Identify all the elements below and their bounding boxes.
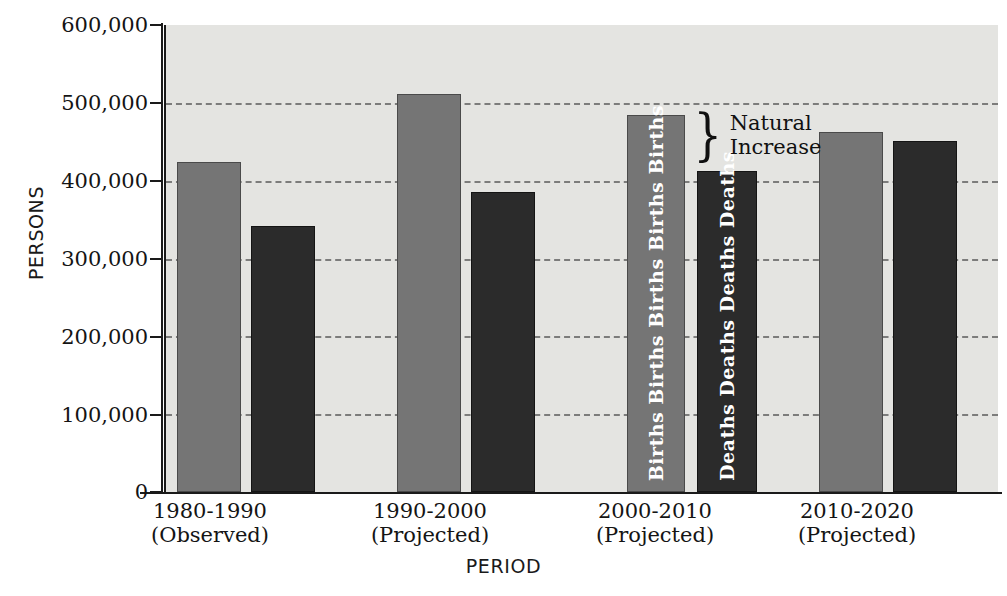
x-tick-period-1: 1980-1990 <box>153 499 267 523</box>
curly-brace-icon: } <box>694 115 723 155</box>
y-tick-mark-500000 <box>150 102 161 104</box>
x-tick-status-1: (Observed) <box>100 524 320 548</box>
y-tick-mark-0 <box>150 491 161 493</box>
gridline-500000 <box>166 103 998 105</box>
y-tick-mark-200000 <box>150 336 161 338</box>
bar-births-1980-1990[interactable] <box>177 162 241 492</box>
x-axis-line <box>140 492 1002 494</box>
plot-area: Births Births Births Births Births Death… <box>164 25 998 492</box>
y-tick-label-500000: 500,000 <box>20 93 148 114</box>
x-tick-label-2000-2010: 2000-2010 (Projected) <box>545 500 765 548</box>
y-axis-line <box>161 23 163 494</box>
x-tick-label-1990-2000: 1990-2000 (Projected) <box>320 500 540 548</box>
bar-deaths-2000-2010[interactable]: Deaths Deaths Deaths Deaths <box>697 171 757 492</box>
population-bar-chart: Births Births Births Births Births Death… <box>0 0 1007 596</box>
natural-increase-line1: Natural <box>730 112 822 136</box>
x-tick-label-2010-2020: 2010-2020 (Projected) <box>747 500 967 548</box>
x-tick-status-2: (Projected) <box>320 524 540 548</box>
bar-births-1990-2000[interactable] <box>397 94 461 493</box>
y-tick-mark-300000 <box>150 258 161 260</box>
x-tick-label-1980-1990: 1980-1990 (Observed) <box>100 500 320 548</box>
y-tick-mark-600000 <box>150 24 161 26</box>
bar-label-births: Births Births Births Births Births <box>645 105 667 481</box>
bar-deaths-1990-2000[interactable] <box>471 192 535 492</box>
y-tick-mark-400000 <box>150 180 161 182</box>
natural-increase-annotation: } Natural Increase <box>690 112 821 159</box>
bar-label-deaths: Deaths Deaths Deaths Deaths <box>716 151 738 481</box>
natural-increase-line2: Increase <box>730 136 822 160</box>
x-tick-period-2: 1990-2000 <box>373 499 487 523</box>
x-axis-title: PERIOD <box>0 555 1007 577</box>
bar-births-2010-2020[interactable] <box>819 132 883 492</box>
x-tick-status-4: (Projected) <box>747 524 967 548</box>
y-tick-label-600000: 600,000 <box>20 15 148 36</box>
y-tick-label-100000: 100,000 <box>20 405 148 426</box>
bar-births-2000-2010[interactable]: Births Births Births Births Births <box>627 115 685 492</box>
x-tick-status-3: (Projected) <box>545 524 765 548</box>
bar-deaths-2010-2020[interactable] <box>893 141 957 492</box>
y-tick-mark-100000 <box>150 414 161 416</box>
natural-increase-label: Natural Increase <box>730 112 822 159</box>
bar-deaths-1980-1990[interactable] <box>251 226 315 492</box>
y-axis-title: PERSONS <box>25 153 47 313</box>
x-tick-period-3: 2000-2010 <box>598 499 712 523</box>
x-tick-period-4: 2010-2020 <box>800 499 914 523</box>
y-tick-label-200000: 200,000 <box>20 327 148 348</box>
